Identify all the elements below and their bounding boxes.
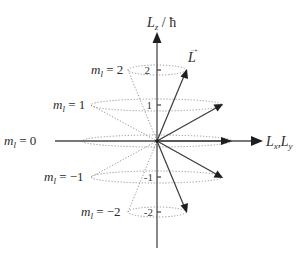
vector-m-1 — [157, 141, 216, 174]
level-label-m-2: ml = −2 — [81, 204, 121, 221]
vector-m2 — [157, 76, 184, 141]
tick-label-2: 2 — [145, 64, 151, 76]
vertical-axis-label: Lz / ħ — [146, 15, 176, 32]
tick-label-neg1: -1 — [144, 171, 153, 183]
vectors — [157, 69, 232, 213]
tick-label-neg2: -2 — [144, 206, 153, 218]
origin-point — [155, 139, 159, 143]
angular-momentum-diagram: 2 1 -1 -2 Lz / ħ Lx,Ly L → ml = 2 ml = 1… — [0, 0, 308, 260]
vector-l-arrow-icon: → — [189, 43, 199, 54]
vector-m1 — [157, 108, 216, 141]
level-label-m0: ml = 0 — [4, 133, 36, 150]
level-label-m2: ml = 2 — [91, 62, 123, 79]
vector-m0-arrowhead — [221, 137, 232, 145]
level-label-m-1: ml = −1 — [44, 169, 84, 186]
vector-m2-arrowhead — [181, 69, 189, 79]
cone-side-m2 — [128, 70, 157, 141]
level-label-m1: ml = 1 — [53, 97, 85, 114]
horizontal-axis-label: Lx,Ly — [265, 134, 293, 151]
vector-m-2-arrowhead — [181, 203, 189, 213]
tick-label-1: 1 — [147, 99, 153, 111]
horizontal-axis-arrowhead — [251, 136, 263, 146]
vertical-axis-arrowhead — [153, 32, 162, 43]
vector-m-2 — [157, 141, 184, 206]
